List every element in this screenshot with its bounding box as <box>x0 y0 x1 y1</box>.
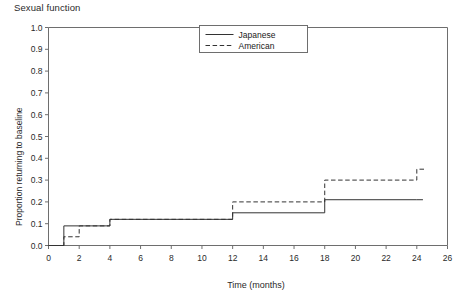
y-tick-label: 0.7 <box>31 88 43 98</box>
y-tick-label: 0.4 <box>31 153 43 163</box>
x-tick-label: 4 <box>108 253 113 263</box>
x-tick-label: 14 <box>259 253 269 263</box>
x-tick-label: 6 <box>138 253 143 263</box>
series-line-american <box>49 169 427 245</box>
series-line-japanese <box>49 200 423 246</box>
x-tick-label: 24 <box>412 253 422 263</box>
y-tick-label: 0.9 <box>31 44 43 54</box>
x-tick-label: 22 <box>381 253 391 263</box>
x-tick-label: 0 <box>46 253 51 263</box>
y-tick-label: 0.1 <box>31 219 43 229</box>
y-tick-label: 0.6 <box>31 110 43 120</box>
x-tick-label: 18 <box>320 253 330 263</box>
y-tick-label: 0.0 <box>31 241 43 251</box>
x-tick-label: 12 <box>228 253 238 263</box>
y-tick-label: 0.5 <box>31 132 43 142</box>
plot-area: 0.00.10.20.30.40.50.60.70.80.91.00246810… <box>0 0 468 301</box>
x-tick-label: 16 <box>289 253 299 263</box>
x-tick-label: 8 <box>169 253 174 263</box>
x-tick-label: 2 <box>77 253 82 263</box>
chart-figure: Sexual function Proportion returning to … <box>0 0 468 301</box>
y-tick-label: 0.2 <box>31 197 43 207</box>
y-tick-label: 0.3 <box>31 175 43 185</box>
legend-label-japanese: Japanese <box>239 30 276 40</box>
y-tick-label: 1.0 <box>31 23 43 33</box>
x-tick-label: 20 <box>351 253 361 263</box>
legend-label-american: American <box>239 41 275 51</box>
x-tick-label: 10 <box>197 253 207 263</box>
y-tick-label: 0.8 <box>31 66 43 76</box>
x-tick-label: 26 <box>443 253 453 263</box>
